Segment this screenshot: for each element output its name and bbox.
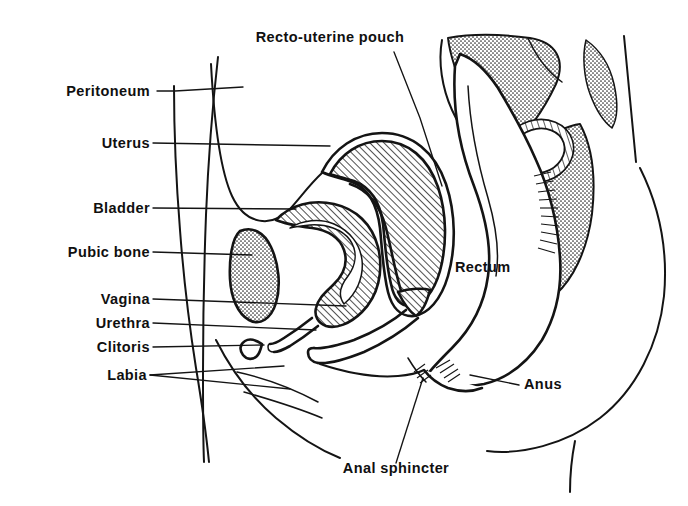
label-anal-sphincter: Anal sphincter xyxy=(343,460,449,476)
label-pubic-bone: Pubic bone xyxy=(68,244,150,260)
label-anus: Anus xyxy=(524,376,562,392)
label-vagina: Vagina xyxy=(101,291,151,307)
label-bladder: Bladder xyxy=(93,200,150,216)
label-clitoris: Clitoris xyxy=(97,339,150,355)
label-rectum: Rectum xyxy=(455,259,511,275)
label-labia: Labia xyxy=(107,367,147,383)
label-uterus: Uterus xyxy=(102,135,150,151)
label-recto-uterine-pouch: Recto-uterine pouch xyxy=(256,29,405,45)
pelvis-sagittal-diagram: Recto-uterine pouch Peritoneum Uterus Bl… xyxy=(0,0,688,506)
label-peritoneum: Peritoneum xyxy=(66,83,150,99)
label-urethra: Urethra xyxy=(96,315,151,331)
anatomical-figure: Recto-uterine pouch Peritoneum Uterus Bl… xyxy=(0,0,688,506)
